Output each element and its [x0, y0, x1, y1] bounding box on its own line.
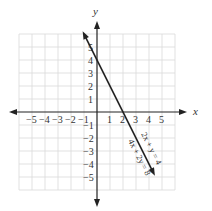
- y-axis-arrow-up-icon: [94, 21, 100, 29]
- y-tick-label: −1: [83, 120, 94, 131]
- x-axis-label: x: [192, 105, 198, 117]
- y-tick-label: 4: [88, 55, 93, 66]
- y-tick-label: 3: [88, 68, 93, 79]
- y-tick-label: 2: [88, 81, 93, 92]
- coordinate-plane: x y −5−4−3−2−112345 54321−1−2−3−4−5 2x +…: [0, 0, 212, 211]
- y-tick-label: −2: [83, 133, 94, 144]
- y-tick-label: −3: [83, 146, 94, 157]
- y-tick-label: 1: [88, 94, 93, 105]
- x-tick-label: −4: [39, 114, 50, 125]
- x-tick-label: −3: [52, 114, 63, 125]
- x-tick-label: 3: [133, 114, 138, 125]
- y-tick-label: −5: [83, 172, 94, 183]
- x-axis-arrow-right-icon: [179, 109, 187, 115]
- y-tick-label: −4: [83, 159, 94, 170]
- x-tick-label: 5: [159, 114, 164, 125]
- x-tick-label: 1: [107, 114, 112, 125]
- y-axis-arrow-down-icon: [94, 199, 100, 207]
- x-tick-labels: −5−4−3−2−112345: [26, 114, 164, 125]
- x-tick-label: −5: [26, 114, 37, 125]
- x-tick-label: −2: [65, 114, 76, 125]
- x-tick-label: 4: [146, 114, 151, 125]
- y-axis-label: y: [92, 5, 98, 17]
- line-arrow-up-icon: [83, 31, 89, 39]
- x-axis-arrow-left-icon: [9, 109, 17, 115]
